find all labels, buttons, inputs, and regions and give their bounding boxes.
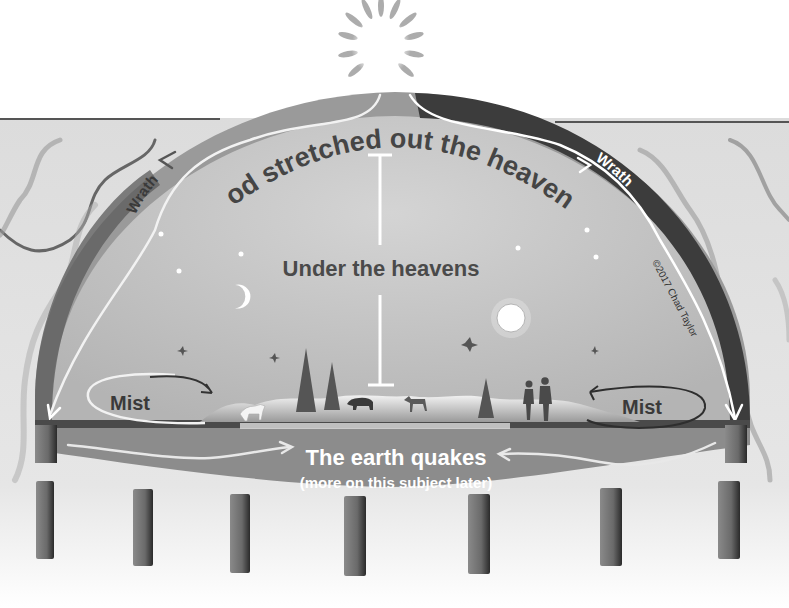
pillar-icon bbox=[344, 496, 366, 576]
star-icon bbox=[585, 228, 590, 233]
star-icon bbox=[177, 269, 182, 274]
star-icon bbox=[516, 246, 521, 251]
pillar-icon bbox=[133, 489, 153, 566]
pillar-icon bbox=[468, 494, 490, 574]
star-icon bbox=[239, 252, 244, 257]
under-heavens-label: Under the heavens bbox=[283, 256, 480, 281]
earth-quakes-label: The earth quakes bbox=[306, 445, 487, 470]
pillar-icon bbox=[718, 481, 740, 559]
pillar-icon bbox=[36, 481, 54, 559]
mist-label-right: Mist bbox=[622, 396, 662, 418]
mist-label-left: Mist bbox=[110, 392, 150, 414]
pillar-icon bbox=[600, 488, 622, 566]
star-icon bbox=[594, 255, 599, 260]
pillar-cap-left bbox=[35, 425, 57, 463]
pillar-icon bbox=[230, 494, 250, 573]
pillar-cap-right bbox=[725, 425, 747, 463]
sun-icon bbox=[338, 0, 425, 79]
earth-note-label: (more on this subject later) bbox=[300, 474, 493, 491]
diagram-canvas: God stretched out the heavens Wrath Wrat… bbox=[0, 0, 789, 608]
star-icon bbox=[159, 232, 164, 237]
creation-diagram: God stretched out the heavens Wrath Wrat… bbox=[0, 0, 789, 608]
